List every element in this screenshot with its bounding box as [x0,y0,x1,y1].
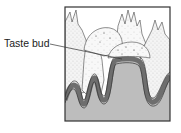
taste-bud-label: Taste bud [4,37,50,50]
tongue-papillae-diagram [0,0,181,133]
